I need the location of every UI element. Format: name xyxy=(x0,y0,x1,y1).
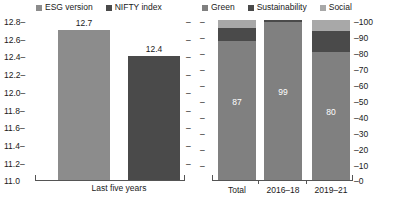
left-ytick-11-0: 11.0 xyxy=(4,177,20,186)
left-ytick-mirror-12-0: – xyxy=(186,89,191,98)
right-ytick-mirror-60: – xyxy=(200,82,205,91)
stack-2016-18-green xyxy=(264,22,302,180)
right-ytick-mirror-90: – xyxy=(200,34,205,43)
left-axis-baseline xyxy=(35,180,185,181)
left-ytick-12-6: 12.6 – xyxy=(4,36,25,45)
right-axis-left-cap xyxy=(212,175,213,180)
left-chart-panel: ESG version NIFTY index 12.8 – 12.6 – 12… xyxy=(0,0,196,203)
right-category-total: Total xyxy=(213,186,261,195)
right-ytick-20: – 20 xyxy=(354,146,368,155)
chart-figure: ESG version NIFTY index 12.8 – 12.6 – 12… xyxy=(0,0,399,203)
stack-2019-21-sustainability xyxy=(312,31,350,52)
bar-label-esg-version: 12.7 xyxy=(58,19,110,28)
legend-swatch-social xyxy=(320,5,326,11)
legend-swatch-sustainability xyxy=(248,5,254,11)
left-ytick-mirror-11-8: – xyxy=(186,107,191,116)
right-ytick-0: – 0 xyxy=(354,177,363,186)
right-legend: Green Sustainability Social xyxy=(202,3,361,12)
left-ytick-mirror-12-8: – xyxy=(186,18,191,27)
stack-total-social xyxy=(218,20,256,28)
left-ytick-mirror-12-2: – xyxy=(186,71,191,80)
right-ytick-mirror-70: – xyxy=(200,66,205,75)
left-ytick-mirror-11-6: – xyxy=(186,124,191,133)
left-ytick-mirror-11-2: – xyxy=(186,160,191,169)
right-ytick-mirror-100: – xyxy=(200,18,205,27)
right-ytick-90: – 90 xyxy=(354,34,368,43)
legend-entry-esg-version: ESG version xyxy=(36,3,93,12)
left-ytick-mirror-12-6: – xyxy=(186,36,191,45)
right-axis-baseline xyxy=(212,180,353,181)
right-ytick-60: – 60 xyxy=(354,82,368,91)
legend-label-green: Green xyxy=(211,3,235,12)
right-ytick-40: – 40 xyxy=(354,114,368,123)
left-axis-left-cap xyxy=(35,175,36,180)
right-ytick-mirror-50: – xyxy=(200,98,205,107)
left-category-label: Last five years xyxy=(58,184,180,193)
left-ytick-11-2: 11.2 – xyxy=(4,160,25,169)
left-ytick-11-6: 11.6 – xyxy=(4,124,25,133)
legend-swatch-nifty-index xyxy=(106,5,112,11)
legend-entry-sustainability: Sustainability xyxy=(248,3,307,12)
right-ytick-100: – 100 xyxy=(354,18,373,27)
stack-label-2019-21: 80 xyxy=(312,108,350,117)
legend-label-nifty-index: NIFTY index xyxy=(115,3,162,12)
right-ytick-10: – 10 xyxy=(354,162,368,171)
right-axis-tick-2 xyxy=(306,180,307,184)
right-category-2016-18: 2016–18 xyxy=(259,186,307,195)
stack-total-green xyxy=(218,41,256,180)
left-ytick-mirror-11-4: – xyxy=(186,142,191,151)
left-ytick-12-8: 12.8 – xyxy=(4,18,25,27)
right-ytick-30: – 30 xyxy=(354,130,368,139)
left-ytick-11-4: 11.4 – xyxy=(4,142,25,151)
right-category-2019-21: 2019–21 xyxy=(307,186,355,195)
stack-label-2016-18: 99 xyxy=(264,88,302,97)
legend-entry-social: Social xyxy=(320,3,352,12)
right-ytick-80: – 80 xyxy=(354,50,368,59)
right-ytick-mirror-20: – xyxy=(200,146,205,155)
stack-2019-21-social xyxy=(312,20,350,31)
right-ytick-mirror-10: – xyxy=(200,162,205,171)
legend-swatch-green xyxy=(202,5,208,11)
legend-label-sustainability: Sustainability xyxy=(257,3,307,12)
legend-entry-green: Green xyxy=(202,3,235,12)
left-ytick-12-0: 12.0 – xyxy=(4,89,25,98)
left-legend: ESG version NIFTY index xyxy=(36,3,171,12)
left-axis-right-cap xyxy=(184,175,185,180)
left-ytick-12-2: 12.2 – xyxy=(4,71,25,80)
right-ytick-mirror-80: – xyxy=(200,50,205,59)
legend-label-social: Social xyxy=(329,3,352,12)
right-ytick-mirror-40: – xyxy=(200,114,205,123)
bar-nifty-index xyxy=(128,56,180,180)
stack-total-sustainability xyxy=(218,28,256,41)
right-ytick-mirror-30: – xyxy=(200,130,205,139)
stack-label-total: 87 xyxy=(218,98,256,107)
left-ytick-12-4: 12.4 – xyxy=(4,53,25,62)
right-ytick-70: – 70 xyxy=(354,66,368,75)
left-ytick-mirror-12-4: – xyxy=(186,53,191,62)
bar-esg-version xyxy=(58,30,110,180)
right-chart-panel: Green Sustainability Social – – – – – – … xyxy=(196,0,399,203)
left-ytick-11-8: 11.8 – xyxy=(4,107,25,116)
right-axis-tick-1 xyxy=(258,180,259,184)
bar-label-nifty-index: 12.4 xyxy=(128,45,180,54)
legend-label-esg-version: ESG version xyxy=(45,3,93,12)
legend-entry-nifty-index: NIFTY index xyxy=(106,3,162,12)
right-axis-right-cap xyxy=(352,175,353,180)
right-ytick-50: – 50 xyxy=(354,98,368,107)
legend-swatch-esg-version xyxy=(36,5,42,11)
